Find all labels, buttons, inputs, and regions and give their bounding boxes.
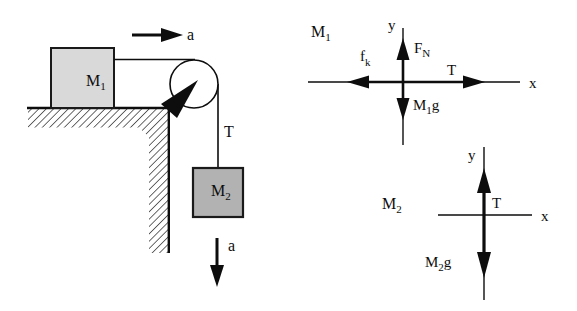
arrowhead-down-icon <box>210 265 224 287</box>
fbd1-weight-force-arrow <box>397 82 410 120</box>
fbd2-weight-force-arrow <box>477 215 491 278</box>
arrowhead-up-icon <box>397 38 410 60</box>
fbd1-friction-force-label: fk <box>360 48 371 68</box>
fbd1-normal-force-label: FN <box>414 40 430 59</box>
physics-figure: a M1 T M2 a M1 <box>0 0 577 311</box>
accel-top-label: a <box>187 26 194 43</box>
acceleration-arrow-top <box>132 28 183 42</box>
acceleration-arrow-bottom <box>210 238 224 287</box>
arrowhead-up-icon <box>477 168 491 193</box>
free-body-diagram-m2: M2 y x T M2g <box>382 147 549 300</box>
fbd2-tension-force-label: T <box>492 195 501 211</box>
fbd2-x-axis-label: x <box>541 208 549 224</box>
fbd2-title: M2 <box>382 195 402 215</box>
block-m1 <box>51 48 114 108</box>
fbd1-tension-force-label: T <box>447 62 456 78</box>
fbd2-y-axis-label: y <box>468 147 476 163</box>
pulley-system-diagram: a M1 T M2 a <box>27 26 243 287</box>
arrowhead-right-icon <box>161 28 183 42</box>
fbd1-normal-force-arrow <box>397 38 410 82</box>
fbd2-tension-force-arrow <box>477 168 491 215</box>
arrowhead-down-icon <box>477 252 491 278</box>
fbd1-friction-force-arrow <box>347 76 403 89</box>
arrowhead-right-icon <box>463 76 485 89</box>
free-body-diagram-m1: M1 y x FN fk T <box>308 17 537 145</box>
arrowhead-left-icon <box>347 76 369 89</box>
arrowhead-down-icon <box>397 98 410 120</box>
fbd1-y-axis-label: y <box>388 17 396 33</box>
fbd1-title: M1 <box>311 23 331 43</box>
table-hatch-region <box>28 109 169 254</box>
fbd1-x-axis-label: x <box>529 75 537 91</box>
accel-bottom-label: a <box>228 237 235 254</box>
fbd1-tension-force-arrow <box>403 76 485 89</box>
fbd2-weight-force-label: M2g <box>425 254 452 273</box>
rope-tension-label: T <box>224 123 234 140</box>
fbd1-weight-force-label: M1g <box>413 97 440 116</box>
figure-svg: a M1 T M2 a M1 <box>0 0 577 311</box>
